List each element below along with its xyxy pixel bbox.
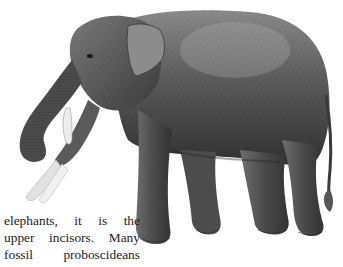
text-line: upper incisors. Many xyxy=(4,229,140,246)
text-line: fossil proboscideans xyxy=(4,246,140,263)
text-line: elephants, it is the xyxy=(4,212,140,229)
body-text: elephants, it is the upper incisors. Man… xyxy=(4,212,140,263)
